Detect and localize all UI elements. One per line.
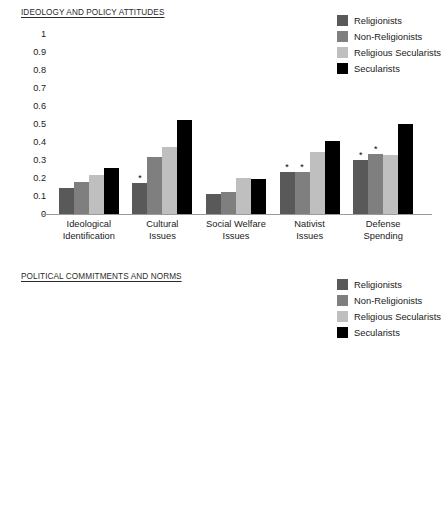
bar-group: ** (280, 34, 340, 214)
bar-group (206, 34, 266, 214)
bar (368, 154, 383, 214)
y-axis-tick-label: 0.1 (33, 191, 46, 201)
bar (310, 152, 325, 214)
bar (295, 172, 310, 214)
y-axis-tick-label: 0.6 (33, 101, 46, 111)
bar (353, 160, 368, 214)
bar (398, 124, 413, 214)
significance-marker: * (138, 175, 142, 181)
chart-panel-ideology-and-policy-attitudes: IDEOLOGY AND POLICY ATTITUDES Religionis… (0, 0, 447, 264)
bar-group: * (132, 34, 192, 214)
y-axis-bottom: 10.90.80.70.60.50.40.30.20.10 (0, 264, 46, 527)
y-axis-tick-label: 0.4 (33, 137, 46, 147)
bar (132, 183, 147, 214)
bar (236, 178, 251, 214)
bar-column (177, 34, 192, 214)
bar (206, 194, 221, 214)
bar-column (89, 34, 104, 214)
y-axis-tick-label: 0.2 (33, 173, 46, 183)
x-axis-category-label: DefenseSpending (332, 219, 434, 242)
bar (383, 155, 398, 214)
bar-group: ** (353, 34, 413, 214)
bar-column: * (295, 34, 310, 214)
bar (74, 182, 89, 214)
bar (280, 172, 295, 214)
bar-column (398, 34, 413, 214)
bar-column: * (132, 34, 147, 214)
y-axis-tick-label: 0.8 (33, 65, 46, 75)
bar-column (147, 34, 162, 214)
bar (325, 141, 340, 214)
bar-column (310, 34, 325, 214)
significance-marker: * (374, 146, 378, 152)
bar-column: * (368, 34, 383, 214)
chart-panel-political-commitments-and-norms: POLITICAL COMMITMENTS AND NORMS Religion… (0, 264, 447, 527)
significance-marker: * (300, 164, 304, 170)
bar (147, 157, 162, 214)
x-axis-baseline-top (42, 214, 432, 215)
bar (251, 179, 266, 214)
bar-column (383, 34, 398, 214)
y-axis-tick-label: 1 (41, 29, 46, 39)
bar-column (104, 34, 119, 214)
plot-area-top: 10.90.80.70.60.50.40.30.20.10 ***** Ideo… (0, 0, 447, 264)
bar-column (325, 34, 340, 214)
y-axis-tick-label: 0.5 (33, 119, 46, 129)
bar-column (59, 34, 74, 214)
bar (162, 147, 177, 215)
bar (89, 175, 104, 214)
y-axis-tick-label: 0.7 (33, 83, 46, 93)
bar-column (74, 34, 89, 214)
bar-column: * (353, 34, 368, 214)
y-axis-tick-label: 0.3 (33, 155, 46, 165)
significance-marker: * (359, 152, 363, 158)
bar-column (251, 34, 266, 214)
bar-column (162, 34, 177, 214)
bar-column (221, 34, 236, 214)
bar (221, 192, 236, 215)
y-axis-tick-label: 0.9 (33, 47, 46, 57)
plot-area-bottom: 10.90.80.70.60.50.40.30.20.10 ** PartyCo… (0, 264, 447, 527)
bar (59, 188, 74, 214)
bar-column (206, 34, 221, 214)
bar-group (59, 34, 119, 214)
bar (177, 120, 192, 214)
bar-column: * (280, 34, 295, 214)
bars-area-top: ***** (52, 34, 420, 214)
significance-marker: * (285, 164, 289, 170)
bar (104, 168, 119, 214)
bar-column (236, 34, 251, 214)
